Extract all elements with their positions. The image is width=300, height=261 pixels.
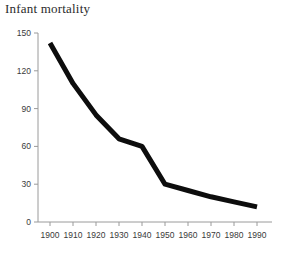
y-axis-tick-label: 90 xyxy=(22,104,32,114)
x-axis-tick-label: 1930 xyxy=(110,230,129,240)
infant-mortality-chart: Infant mortality 0306090120150 190019101… xyxy=(0,0,300,261)
x-axis-tick-label: 1910 xyxy=(64,230,83,240)
x-axis-tick-label: 1920 xyxy=(87,230,106,240)
y-axis-tick-label: 60 xyxy=(22,141,32,151)
x-axis-tick-label: 1990 xyxy=(248,230,267,240)
x-axis-tick-label: 1900 xyxy=(41,230,60,240)
y-axis-tick-label: 150 xyxy=(17,28,31,38)
y-axis-tick-label: 0 xyxy=(26,217,31,227)
x-axis-tick-label: 1980 xyxy=(225,230,244,240)
y-axis-tick-label: 30 xyxy=(22,179,32,189)
x-axis-tick-label: 1940 xyxy=(133,230,152,240)
x-axis: 1900191019201930194019501960197019801990 xyxy=(38,222,272,240)
x-axis-tick-label: 1950 xyxy=(156,230,175,240)
data-series xyxy=(50,43,257,207)
series-line-infant-mortality xyxy=(50,43,257,207)
x-axis-tick-label: 1960 xyxy=(179,230,198,240)
y-axis: 0306090120150 xyxy=(17,28,38,227)
chart-plot-area: 0306090120150 19001910192019301940195019… xyxy=(0,0,300,261)
y-axis-tick-label: 120 xyxy=(17,66,31,76)
x-axis-tick-label: 1970 xyxy=(202,230,221,240)
